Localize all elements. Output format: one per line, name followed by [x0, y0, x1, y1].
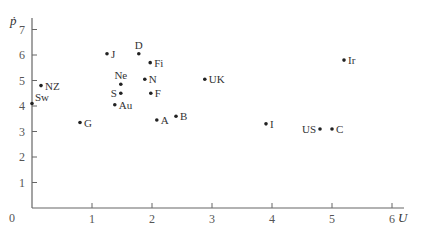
y-tick-label: 4	[19, 99, 25, 113]
data-point: D	[135, 39, 143, 56]
x-tick-label: 4	[269, 212, 275, 226]
point-marker	[174, 114, 178, 118]
data-point: NZ	[39, 80, 60, 92]
point-label: C	[336, 123, 343, 135]
x-axis-title: U	[398, 210, 409, 225]
point-marker	[105, 52, 109, 56]
point-label: I	[270, 118, 274, 130]
x-tick-label: 3	[209, 212, 215, 226]
x-tick-label: 5	[329, 212, 335, 226]
data-point: F	[149, 87, 161, 99]
point-marker	[119, 83, 123, 87]
point-label: Sw	[35, 91, 49, 103]
y-tick-label: 1	[19, 176, 25, 190]
data-point: UK	[203, 73, 225, 85]
data-point: US	[302, 123, 322, 135]
x-tick-label: 1	[89, 212, 95, 226]
data-point: Ir	[342, 54, 355, 66]
data-point: C	[330, 123, 343, 135]
point-marker	[155, 118, 159, 122]
point-marker	[119, 91, 123, 95]
point-marker	[149, 91, 153, 95]
point-label: Ne	[114, 69, 127, 81]
data-point: G	[78, 117, 92, 129]
point-marker	[143, 77, 147, 81]
data-point: I	[264, 118, 274, 130]
scatter-chart: Uṗ0 1234561234567 SwNZGJNeSAuDFiNFABUKIU…	[0, 0, 424, 235]
point-label: Fi	[154, 57, 163, 69]
point-marker	[113, 103, 117, 107]
point-label: A	[161, 114, 169, 126]
point-label: D	[135, 39, 143, 51]
point-marker	[137, 52, 141, 56]
point-marker	[78, 121, 82, 125]
point-label: F	[155, 87, 161, 99]
point-label: N	[149, 73, 157, 85]
point-marker	[342, 58, 346, 62]
point-label: NZ	[45, 80, 60, 92]
point-marker	[148, 61, 152, 65]
data-point: A	[155, 114, 169, 126]
y-tick-label: 3	[19, 125, 25, 139]
point-marker	[203, 77, 207, 81]
point-label: UK	[209, 73, 225, 85]
data-point: Ne	[114, 69, 127, 86]
point-label: B	[180, 110, 187, 122]
axes: Uṗ0	[9, 13, 409, 225]
y-tick-label: 5	[19, 74, 25, 88]
data-point: J	[105, 48, 116, 60]
y-axis-title: ṗ	[9, 13, 17, 28]
origin-label: 0	[9, 211, 15, 225]
point-marker	[330, 127, 334, 131]
data-point: N	[143, 73, 157, 85]
point-label: S	[111, 87, 117, 99]
data-point: Sw	[30, 91, 49, 105]
data-point: Au	[113, 99, 133, 111]
y-tick-label: 7	[19, 23, 25, 37]
y-tick-label: 6	[19, 48, 25, 62]
point-marker	[264, 122, 268, 126]
point-label: US	[302, 123, 316, 135]
point-label: J	[111, 48, 116, 60]
x-tick-label: 6	[389, 212, 395, 226]
data-points: SwNZGJNeSAuDFiNFABUKIUSCIr	[30, 39, 355, 135]
y-tick-label: 2	[19, 150, 25, 164]
x-tick-label: 2	[149, 212, 155, 226]
point-marker	[318, 127, 322, 131]
data-point: B	[174, 110, 187, 122]
point-marker	[30, 102, 34, 106]
point-label: Ir	[348, 54, 356, 66]
data-point: Fi	[148, 57, 163, 69]
point-label: Au	[119, 99, 133, 111]
point-label: G	[84, 117, 92, 129]
data-point: S	[111, 87, 123, 99]
point-marker	[39, 84, 43, 88]
